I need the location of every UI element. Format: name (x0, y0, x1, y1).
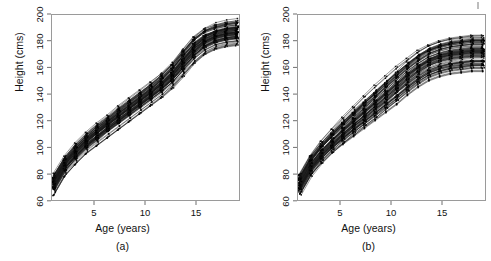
panel-label-b: (b) (246, 240, 491, 252)
plot-area-b (297, 14, 486, 201)
x-tick-label-15-b: 15 (429, 207, 455, 218)
y-tick-label-100-a: 100 (34, 135, 45, 161)
x-axis-label-b: Age (years) (246, 222, 491, 234)
y-axis-label-b: Height (cms) (259, 17, 271, 107)
y-tick-label-140-a: 140 (34, 82, 45, 108)
x-tick-label-10-b: 10 (378, 207, 404, 218)
y-axis-label-a: Height (cms) (13, 17, 25, 107)
y-tick-label-180-a: 180 (34, 28, 45, 54)
y-tick-label-120-b: 120 (280, 108, 291, 134)
x-tick-label-5-a: 5 (81, 207, 107, 218)
panel-b: Height (cms) 200 180 160 140 120 100 80 … (246, 0, 491, 261)
x-tick-label-5-b: 5 (327, 207, 353, 218)
spaghetti-lines-a (52, 15, 239, 200)
x-tick-label-10-a: 10 (132, 207, 158, 218)
y-tick-label-120-a: 120 (34, 108, 45, 134)
y-tick-label-60-b: 60 (280, 188, 291, 214)
x-axis-label-a: Age (years) (0, 222, 245, 234)
spaghetti-lines-b (298, 15, 485, 200)
y-tick-label-60-a: 60 (34, 188, 45, 214)
panel-a: Height (cms) 200 180 160 140 120 100 80 … (0, 0, 245, 261)
growth-curves-figure: Height (cms) 200 180 160 140 120 100 80 … (0, 0, 491, 261)
y-tick-label-80-b: 80 (280, 162, 291, 188)
y-tick-label-140-b: 140 (280, 82, 291, 108)
y-tick-label-160-b: 160 (280, 55, 291, 81)
plot-area-a (51, 14, 240, 201)
y-tick-label-160-a: 160 (34, 55, 45, 81)
x-tick-label-15-a: 15 (183, 207, 209, 218)
panel-label-a: (a) (0, 240, 245, 252)
y-tick-label-100-b: 100 (280, 135, 291, 161)
stray-tick-mark-icon (477, 2, 479, 9)
y-tick-label-200-a: 200 (34, 2, 45, 28)
y-tick-label-80-a: 80 (34, 162, 45, 188)
y-tick-label-180-b: 180 (280, 28, 291, 54)
y-tick-label-200-b: 200 (280, 2, 291, 28)
